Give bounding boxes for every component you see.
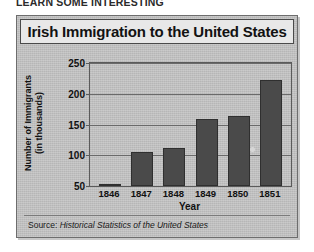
y-axis-title-line1: Number of Immigrants	[23, 75, 33, 171]
bar-slot	[228, 63, 250, 186]
x-axis-tick-label: 1849	[195, 188, 217, 199]
gridline: 50	[90, 186, 291, 187]
top-caption: LEARN SOME INTERESTING	[16, 0, 296, 7]
y-axis-tick-mark	[86, 186, 90, 187]
y-axis-tick-label: 250	[68, 58, 85, 69]
bar-series	[90, 63, 291, 186]
bar-1851[interactable]	[260, 80, 282, 186]
bar-1849[interactable]	[196, 119, 218, 186]
x-axis-tick-label: 1850	[227, 188, 249, 199]
source-prefix: Source:	[28, 220, 57, 230]
x-axis-tick-label: 1846	[98, 188, 120, 199]
scan-artifact-speck	[250, 147, 255, 152]
y-axis-tick-label: 200	[68, 88, 85, 99]
bar-slot	[163, 63, 185, 186]
chart-figure: Irish Immigration to the United States N…	[16, 15, 298, 238]
y-axis-title-line2: (in thousands)	[34, 92, 44, 154]
bar-1846[interactable]	[99, 184, 121, 186]
source-title: Historical Statistics of the United Stat…	[60, 220, 208, 230]
y-axis-title: Number of Immigrants (in thousands)	[23, 60, 45, 186]
x-axis-tick-labels: 184618471848184918501851	[89, 188, 290, 199]
bar-slot	[260, 63, 282, 186]
bar-slot	[131, 63, 153, 186]
source-divider	[24, 215, 290, 216]
bar-1848[interactable]	[163, 148, 185, 186]
y-axis-tick-label: 150	[68, 119, 85, 130]
x-axis-tick-label: 1847	[130, 188, 152, 199]
bar-slot	[99, 63, 121, 186]
x-axis-title: Year	[89, 201, 290, 212]
y-axis-tick-label: 50	[74, 181, 85, 192]
page-title: Irish Immigration to the United States	[27, 24, 286, 39]
bar-slot	[196, 63, 218, 186]
chart-title-bar: Irish Immigration to the United States	[20, 19, 294, 44]
source-note: Source: Historical Statistics of the Uni…	[28, 220, 208, 230]
bar-1847[interactable]	[131, 152, 153, 186]
x-axis-tick-label: 1851	[259, 188, 281, 199]
y-axis-tick-label: 100	[68, 150, 85, 161]
bar-1850[interactable]	[228, 116, 250, 186]
plot-area: 50100150200250	[89, 62, 292, 187]
x-axis-tick-label: 1848	[162, 188, 184, 199]
